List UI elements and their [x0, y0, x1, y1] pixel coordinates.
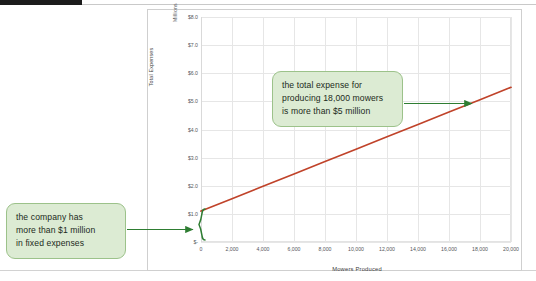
callout-right-line-2: producing 18,000 mowers — [282, 92, 393, 105]
x-tick-label: 0 — [200, 246, 203, 252]
x-tick-label: 16,000 — [441, 246, 457, 252]
callout-right-line-1: the total expense for — [282, 79, 393, 92]
total-expense-callout: the total expense for producing 18,000 m… — [272, 71, 403, 127]
y-tick-label: $3.0 — [188, 155, 198, 161]
y-tick-label: $5.0 — [188, 98, 198, 104]
page-top-dark-bar — [0, 0, 82, 5]
x-tick-label: 14,000 — [410, 246, 426, 252]
x-tick-label: 10,000 — [348, 246, 364, 252]
x-tick-label: 6,000 — [288, 246, 301, 252]
y-tick-label: $- — [193, 239, 198, 245]
y-tick-label: $7.0 — [188, 42, 198, 48]
y-tick-label: $2.0 — [188, 183, 198, 189]
callout-right-line-3: is more than $5 million — [282, 105, 393, 118]
x-tick-label: 2,000 — [226, 246, 239, 252]
y-axis-title: Total Expenses — [148, 22, 154, 112]
y-tick-label: $4.0 — [188, 127, 198, 133]
callout-left-line-3: in fixed expenses — [16, 237, 116, 250]
x-tick-label: 12,000 — [379, 246, 395, 252]
y-axis-units-label: Millions — [172, 0, 178, 22]
y-tick-label: $8.0 — [188, 14, 198, 20]
y-tick-label: $1.0 — [188, 211, 198, 217]
callout-left-line-1: the company has — [16, 211, 116, 224]
total-expenses-line — [201, 17, 511, 242]
plot-area: $8.0$7.0$6.0$5.0$4.0$3.0$2.0$1.0$- 02,00… — [201, 17, 511, 242]
x-axis-title: Mowers Produced — [200, 266, 514, 272]
x-tick-label: 4,000 — [257, 246, 270, 252]
y-tick-label: $6.0 — [188, 70, 198, 76]
x-tick-label: 20,000 — [503, 246, 519, 252]
x-tick-label: 8,000 — [319, 246, 332, 252]
x-tick-label: 18,000 — [472, 246, 488, 252]
gridline-horizontal — [201, 242, 511, 243]
callout-left-line-2: more than $1 million — [16, 224, 116, 237]
gridline-vertical — [511, 17, 512, 242]
fixed-expenses-callout: the company has more than $1 million in … — [6, 203, 126, 259]
